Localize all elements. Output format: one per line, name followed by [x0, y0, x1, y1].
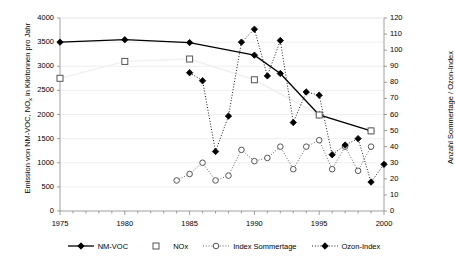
series-line-ozon-index: [190, 29, 384, 182]
data-point-ozon-index: [381, 161, 387, 167]
data-point-nm-voc: [57, 39, 63, 45]
data-point-ozon-index: [277, 37, 283, 43]
x-tick-label: 1975: [40, 219, 80, 228]
data-point-index-sommertage: [316, 137, 322, 143]
data-point-ozon-index: [199, 78, 205, 84]
x-tick-label: 1980: [105, 219, 145, 228]
data-point-index-sommertage: [303, 144, 309, 150]
y-tick-label-left: 2500: [24, 85, 54, 94]
legend-item-index-sommertage[interactable]: Index Sommertage: [202, 241, 296, 251]
legend-label: NM-VOC: [98, 242, 128, 251]
x-tick-label: 2000: [364, 219, 404, 228]
legend-key-open-square: [142, 241, 170, 251]
legend-label: NOx: [173, 242, 188, 251]
data-point-index-sommertage: [226, 173, 232, 179]
data-point-index-sommertage: [213, 178, 219, 184]
y-tick-label-right: 50: [390, 126, 420, 135]
y-tick-label-right: 110: [390, 29, 420, 38]
data-point-nox: [251, 77, 257, 83]
y-tick-label-left: 0: [24, 206, 54, 215]
data-point-index-sommertage: [174, 178, 180, 184]
y-tick-label-left: 3000: [24, 61, 54, 70]
data-point-index-sommertage: [252, 158, 258, 164]
legend-key-solid-line-filled-diamond: [67, 241, 95, 251]
y-tick-label-right: 20: [390, 174, 420, 183]
data-point-ozon-index: [329, 152, 335, 158]
legend-item-nox[interactable]: NOx: [142, 241, 188, 251]
legend-item-ozon-index[interactable]: Ozon-Index: [311, 241, 381, 251]
y-tick-label-right: 100: [390, 45, 420, 54]
chart-legend: NM-VOCNOxIndex SommertageOzon-Index: [0, 238, 447, 254]
data-point-ozon-index: [225, 113, 231, 119]
y-tick-label-right: 30: [390, 158, 420, 167]
data-point-index-sommertage: [368, 144, 374, 150]
data-point-index-sommertage: [265, 155, 271, 161]
y-tick-label-right: 60: [390, 110, 420, 119]
data-point-nox: [368, 128, 374, 134]
data-point-ozon-index: [251, 26, 257, 32]
data-point-ozon-index: [290, 119, 296, 125]
data-point-index-sommertage: [290, 166, 296, 172]
y-tick-label-left: 1500: [24, 134, 54, 143]
data-point-index-sommertage: [329, 166, 335, 172]
data-point-nox: [316, 112, 322, 118]
data-point-nm-voc: [186, 39, 192, 45]
x-tick-label: 1985: [170, 219, 210, 228]
data-point-nox: [187, 56, 193, 62]
data-point-ozon-index: [264, 73, 270, 79]
data-point-ozon-index: [212, 148, 218, 154]
data-point-ozon-index: [186, 69, 192, 75]
data-point-index-sommertage: [355, 168, 361, 174]
legend-label: Ozon-Index: [342, 242, 381, 251]
y-tick-label-left: 1000: [24, 158, 54, 167]
x-tick-label: 1995: [299, 219, 339, 228]
data-point-ozon-index: [355, 135, 361, 141]
data-point-ozon-index: [368, 179, 374, 185]
y-tick-label-right: 40: [390, 142, 420, 151]
data-point-ozon-index: [238, 39, 244, 45]
legend-label: Index Sommertage: [233, 242, 296, 251]
y-tick-label-left: 500: [24, 182, 54, 191]
data-point-index-sommertage: [278, 144, 284, 150]
data-point-ozon-index: [316, 92, 322, 98]
data-point-nox: [122, 58, 128, 64]
y-tick-label-right: 10: [390, 190, 420, 199]
y-tick-label-right: 120: [390, 13, 420, 22]
data-point-index-sommertage: [200, 160, 206, 166]
y-tick-label-right: 80: [390, 77, 420, 86]
y-tick-label-left: 3500: [24, 37, 54, 46]
y-tick-label-right: 70: [390, 93, 420, 102]
data-point-ozon-index: [303, 89, 309, 95]
legend-key-dotted-line-open-circle: [202, 241, 230, 251]
y-tick-label-left: 2000: [24, 110, 54, 119]
y-tick-label-right: 90: [390, 61, 420, 70]
y-tick-label-right: 0: [390, 206, 420, 215]
data-point-index-sommertage: [239, 147, 245, 153]
legend-key-dotted-line-filled-diamond: [311, 241, 339, 251]
y-tick-label-left: 4000: [24, 13, 54, 22]
legend-item-nm-voc[interactable]: NM-VOC: [67, 241, 128, 251]
data-point-index-sommertage: [187, 171, 193, 177]
data-point-nox: [57, 75, 63, 81]
x-tick-label: 1990: [234, 219, 274, 228]
